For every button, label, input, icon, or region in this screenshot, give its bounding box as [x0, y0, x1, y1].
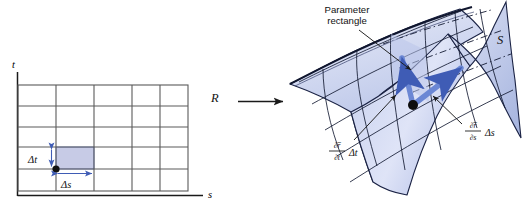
surface-base-point — [408, 100, 418, 110]
s-axis-label: s — [208, 189, 212, 200]
parameter-corner-point — [52, 165, 59, 172]
partial-s-denominator: ∂s — [470, 133, 477, 142]
surface-label-S: S — [497, 33, 504, 47]
partial-s-delta: Δs — [484, 127, 495, 138]
delta-s-label: Δs — [60, 179, 71, 190]
parameter-grid — [18, 85, 188, 191]
right-panel: S Parameter rectangle ∂r̅ ∂t Δt ∂r̅ ∂s Δ… — [290, 2, 521, 195]
parameter-rectangle-caption-line1: Parameter — [325, 4, 371, 15]
partial-r-partial-s-label: ∂r̅ ∂s Δs — [465, 121, 495, 142]
shaded-parameter-rectangle — [56, 147, 94, 169]
figure-svg: t s Δt Δs — [0, 0, 530, 211]
figure-container: t s Δt Δs — [0, 0, 530, 211]
left-panel: t s Δt Δs — [12, 59, 219, 200]
partial-t-numerator: ∂r̅ — [334, 141, 342, 150]
partial-t-denominator: ∂t — [334, 153, 341, 162]
region-label-R: R — [210, 91, 219, 105]
parameter-rectangle-caption-line2: rectangle — [327, 15, 366, 26]
partial-r-partial-t-label: ∂r̅ ∂t Δt — [329, 141, 358, 162]
partial-t-delta: Δt — [348, 147, 358, 158]
t-axis-label: t — [12, 59, 16, 70]
delta-t-label: Δt — [27, 154, 38, 165]
